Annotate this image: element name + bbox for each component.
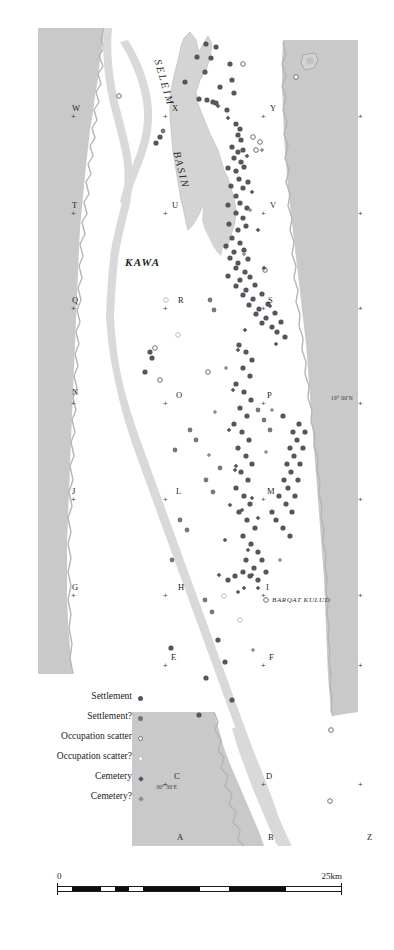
site-settlement [225,273,230,278]
site-cemetery [250,496,255,501]
site-settlement-uncertain [204,478,209,483]
grid-tick: + [163,400,168,408]
site-cemetery-uncertain [260,148,264,152]
site-settlement [233,193,238,198]
site-cemetery-uncertain [270,408,274,412]
legend-item-label: Cemetery? [91,791,132,801]
grid-tick: + [261,592,266,600]
site-settlement [203,675,208,680]
site-settlement [249,357,254,362]
site-settlement [259,557,264,562]
site-settlement [244,413,249,418]
grid-letter-q: Q [72,296,78,305]
legend-symbol-glyph [138,756,143,761]
legend-item-filled-diamond-light: Cemetery? [18,788,168,808]
site-settlement [196,96,201,101]
grid-letter-t: T [72,201,77,210]
site-settlement [147,349,152,354]
site-settlement [142,369,147,374]
site-settlement [263,315,268,320]
site-settlement [297,461,302,466]
site-settlement [194,54,199,59]
site-settlement [235,445,240,450]
site-settlement-uncertain [178,518,183,523]
grid-letter-u: U [172,201,178,210]
grid-letter-m: M [267,487,275,496]
grid-letter-o: O [176,391,182,400]
scale-track [57,886,342,892]
legend-symbol-filled-diamond-icon [136,774,146,784]
site-settlement-uncertain [185,528,190,533]
site-settlement [243,349,248,354]
site-settlement [240,365,245,370]
site-settlement [259,320,264,325]
site-settlement [253,311,258,316]
site-settlement-uncertain [161,129,166,134]
site-settlement [292,493,297,498]
legend-symbol-glyph [138,796,144,802]
grid-tick: + [71,400,76,408]
grid-tick: + [261,781,266,789]
site-settlement [247,373,252,378]
site-settlement [245,256,250,261]
site-settlement [225,165,230,170]
site-settlement [252,282,257,287]
site-settlement [272,310,277,315]
grid-tick: + [261,400,266,408]
site-settlement-uncertain [188,428,193,433]
grid-tick: + [163,305,168,313]
legend-symbol-open-circle-light-icon [136,754,146,764]
site-cemetery [223,538,228,543]
site-settlement [245,477,250,482]
site-settlement [157,134,162,139]
latitude-label: 19° 00'N [331,395,353,401]
site-settlement [252,525,257,530]
site-cemetery [236,348,241,353]
site-settlement [233,265,238,270]
grid-letter-g: G [72,583,78,592]
grid-tick: + [358,305,363,313]
site-settlement [240,533,245,538]
legend-symbol-open-circle-icon [136,734,146,744]
site-settlement [202,69,207,74]
site-occupation-scatter-uncertain [238,618,243,623]
grid-letter-s: S [268,296,273,305]
site-settlement-uncertain [194,438,199,443]
site-settlement [237,240,242,245]
site-settlement [287,533,292,538]
legend-item-label: Settlement [91,691,132,701]
site-settlement [250,296,255,301]
site-settlement [224,107,229,112]
site-cemetery-uncertain [278,558,282,562]
site-cemetery [245,154,250,159]
site-settlement [232,573,237,578]
scale-end-cap-right [341,883,342,895]
site-settlement [240,215,245,220]
site-settlement [246,302,251,307]
grid-tick: + [71,305,76,313]
site-settlement [241,389,246,394]
site-settlement [294,437,299,442]
site-cemetery [217,573,222,578]
scale-max-label: 25km [321,871,342,881]
site-settlement [196,712,201,717]
legend-item-label: Occupation scatter? [57,751,132,761]
site-occupation-scatter-uncertain [222,594,227,599]
site-settlement [283,501,288,506]
grid-letter-c: C [174,772,180,781]
legend-item-filled-dot: Settlement [18,688,168,708]
site-settlement [247,501,252,506]
site-settlement [227,255,232,260]
grid-letter-v: V [270,201,276,210]
site-settlement [289,509,294,514]
site-settlement [233,485,238,490]
site-settlement [231,90,236,95]
scale-segment [115,887,129,891]
site-settlement [226,221,231,226]
legend-item-label: Occupation scatter [61,731,132,741]
site-occupation-scatter [254,148,259,153]
site-cemetery-uncertain [224,366,228,370]
site-settlement [235,227,240,232]
site-settlement [246,437,251,442]
legend-symbol-glyph [138,776,144,782]
